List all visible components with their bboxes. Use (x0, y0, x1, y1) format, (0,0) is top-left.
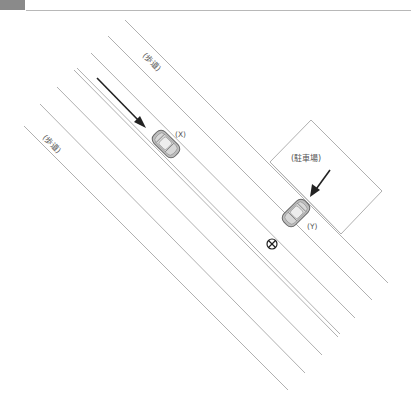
car-y-label: (Y) (307, 222, 318, 231)
car-x-label: (X) (175, 130, 186, 139)
sidewalk-outer-edge-lower (24, 126, 288, 390)
parking-lot-label: (駐車場) (291, 153, 321, 163)
lane-line-2 (57, 87, 322, 355)
collision-point-icon (267, 239, 277, 249)
arrow-car-x-direction (97, 78, 146, 128)
sidewalk-label-lower: (歩道) (41, 132, 64, 155)
sidewalk-label-upper: (歩道) (141, 50, 164, 73)
accident-diagram: (歩道) (歩道) (X) (Y) (駐車場) (0, 0, 411, 414)
